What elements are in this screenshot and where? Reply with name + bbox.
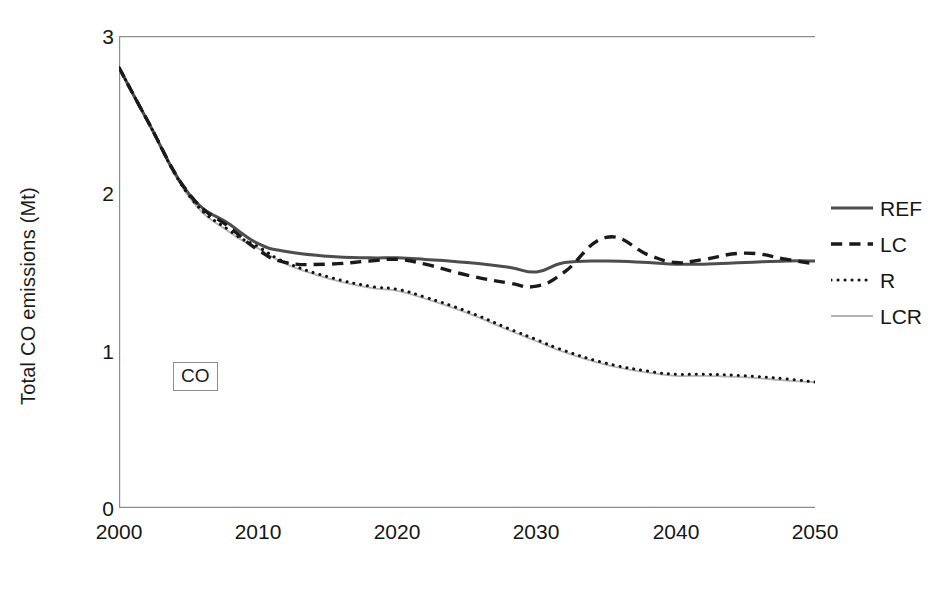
series-line-lc xyxy=(119,67,815,287)
series-lines xyxy=(119,67,815,382)
legend-swatch-ref xyxy=(831,201,873,215)
x-tick-label-2050: 2050 xyxy=(770,521,860,542)
series-line-lcr xyxy=(119,69,815,382)
legend-swatch-lcr xyxy=(831,309,873,323)
annotation-co-box: CO xyxy=(173,362,218,391)
x-tick-label-2010: 2010 xyxy=(213,521,303,542)
legend-label-r: R xyxy=(880,270,895,291)
x-tick-label-2030: 2030 xyxy=(491,521,581,542)
legend-item-ref[interactable]: REF xyxy=(831,190,946,226)
plot-svg xyxy=(119,36,815,508)
legend-swatch-lc xyxy=(831,237,873,251)
y-tick-label-0: 0 xyxy=(74,498,114,519)
y-tick-label-3: 3 xyxy=(74,26,114,47)
series-line-ref xyxy=(119,67,815,272)
tick-marks xyxy=(119,36,815,508)
legend-label-ref: REF xyxy=(880,198,922,219)
legend-swatch-r xyxy=(831,273,873,287)
legend-label-lcr: LCR xyxy=(880,306,922,327)
y-tick-label-1: 1 xyxy=(74,341,114,362)
x-tick-label-2020: 2020 xyxy=(352,521,442,542)
chart-container: Total CO emissions (Mt) 3 2 1 0 2000 201… xyxy=(0,0,950,592)
x-tick-label-2000: 2000 xyxy=(74,521,164,542)
y-tick-label-2: 2 xyxy=(74,183,114,204)
legend-label-lc: LC xyxy=(880,234,907,255)
legend-item-lc[interactable]: LC xyxy=(831,226,946,262)
x-tick-label-2040: 2040 xyxy=(631,521,721,542)
y-axis-title: Total CO emissions (Mt) xyxy=(0,0,56,592)
axis-lines xyxy=(119,36,815,508)
chart-legend: REF LC R LCR xyxy=(831,190,946,334)
legend-item-r[interactable]: R xyxy=(831,262,946,298)
plot-area xyxy=(119,36,815,508)
legend-item-lcr[interactable]: LCR xyxy=(831,298,946,334)
